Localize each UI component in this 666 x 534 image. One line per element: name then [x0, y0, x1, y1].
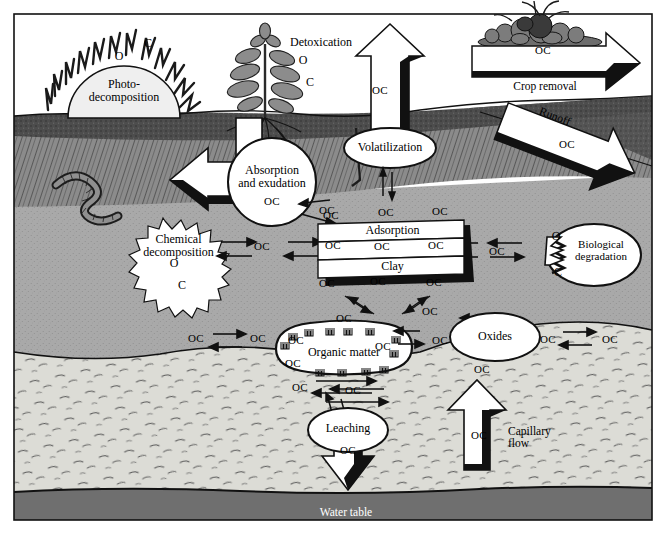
oc-absorption: OC	[261, 196, 283, 208]
oc-left-of-om: OC	[185, 333, 207, 345]
photo-decomposition-label: Photo- decomposition	[74, 78, 174, 104]
oc-leach-side: OC	[342, 385, 364, 397]
oc-clay-row-left: OC	[322, 240, 344, 252]
oc-capillary: OC	[468, 430, 490, 442]
clay-label: Clay	[330, 260, 455, 273]
c-chem: C	[175, 279, 189, 292]
o-chem: O	[167, 257, 181, 270]
oc-om-below: OC	[289, 382, 311, 394]
c-photo: C	[141, 37, 155, 50]
oc-clay-to-bio: OC	[486, 246, 508, 258]
soil-oc-cycle-diagram: Photo- decomposition Detoxication Volati…	[0, 0, 666, 534]
oc-oxides-far-right: OC	[599, 334, 621, 346]
oc-om-upper-left: OC	[333, 313, 355, 325]
oc-below-oxides: OC	[471, 364, 493, 376]
leaching-label: Leaching	[308, 422, 388, 435]
crop-removal-label: Crop removal	[480, 80, 610, 92]
absorption-exudation-label: Absorption and exudation	[222, 164, 322, 190]
oc-om-inner-right: OC	[372, 341, 394, 353]
oc-om-upper-right: OC	[419, 306, 441, 318]
oc-clay-top-right: OC	[429, 206, 451, 218]
water-table-label: Water table	[286, 506, 406, 518]
oc-left-of-om2: OC	[247, 333, 269, 345]
o-photo: O	[112, 50, 126, 63]
oc-om-inner-left: OC	[282, 358, 304, 370]
chemical-decomposition-label: Chemical decomposition	[126, 233, 231, 259]
c-bio: C	[551, 266, 565, 279]
oc-clay-row-right: OC	[425, 240, 447, 252]
adsorption-label: Adsorption	[330, 224, 455, 237]
oc-clay-bottom-mid: OC	[367, 276, 389, 288]
oc-leaching: OC	[337, 445, 359, 457]
capillary-flow-label: Capillary flow	[508, 425, 578, 450]
oc-clay-row-mid: OC	[371, 241, 393, 253]
o-bio: O	[549, 230, 563, 243]
oc-om-side-left: OC	[285, 335, 307, 347]
oc-clay-top-left: OC	[320, 210, 342, 222]
oc-oxides-left: OC	[429, 335, 451, 347]
biological-degradation-label: Biological degradation	[558, 239, 644, 263]
oxides-label: Oxides	[455, 330, 535, 343]
oc-clay-bottom-right: OC	[423, 277, 445, 289]
oc-oxides-right: OC	[537, 334, 559, 346]
oc-clay-top-mid: OC	[375, 207, 397, 219]
oc-crop-removal: OC	[532, 45, 554, 57]
oc-clay-bottom-left: OC	[316, 278, 338, 290]
o-detox: O	[296, 54, 310, 67]
oc-chem-to-clay: OC	[251, 241, 273, 253]
volatilization-label: Volatilization	[340, 141, 440, 154]
detoxication-label: Detoxication	[290, 36, 380, 49]
oc-runoff: OC	[556, 139, 578, 151]
c-detox: C	[303, 76, 317, 89]
oc-volatilization-stack: OC	[369, 85, 391, 97]
